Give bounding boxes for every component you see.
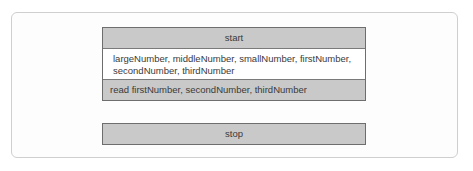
structogram-main-block: start largeNumber, middleNumber, smallNu… (102, 27, 366, 101)
start-block: start (103, 28, 365, 49)
variable-declaration-block: largeNumber, middleNumber, smallNumber, … (103, 49, 365, 80)
stop-block: stop (102, 123, 366, 145)
read-input-block: read firstNumber, secondNumber, thirdNum… (103, 80, 365, 100)
